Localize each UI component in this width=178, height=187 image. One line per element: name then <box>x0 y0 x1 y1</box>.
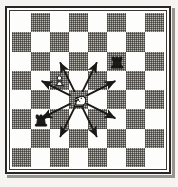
square-h6 <box>145 52 164 71</box>
square-c4 <box>50 90 69 109</box>
square-g8 <box>126 13 145 32</box>
square-a8 <box>12 13 31 32</box>
square-d5 <box>69 71 88 90</box>
square-f1 <box>107 148 126 167</box>
square-f7 <box>107 32 126 51</box>
square-f8 <box>107 13 126 32</box>
square-g7 <box>126 32 145 51</box>
square-e4 <box>88 90 107 109</box>
square-c7 <box>50 32 69 51</box>
square-d3 <box>69 109 88 128</box>
square-d1 <box>69 148 88 167</box>
square-e8 <box>88 13 107 32</box>
square-d4 <box>69 90 88 109</box>
square-e3 <box>88 109 107 128</box>
square-h5 <box>145 71 164 90</box>
square-c2 <box>50 129 69 148</box>
square-g2 <box>126 129 145 148</box>
square-a5 <box>12 71 31 90</box>
square-d8 <box>69 13 88 32</box>
square-d6 <box>69 52 88 71</box>
square-a7 <box>12 32 31 51</box>
square-c6 <box>50 52 69 71</box>
square-a1 <box>12 148 31 167</box>
square-c3 <box>50 109 69 128</box>
square-g4 <box>126 90 145 109</box>
square-h4 <box>145 90 164 109</box>
square-a2 <box>12 129 31 148</box>
square-a3 <box>12 109 31 128</box>
square-d2 <box>69 129 88 148</box>
square-c5 <box>50 71 69 90</box>
square-g5 <box>126 71 145 90</box>
square-e5 <box>88 71 107 90</box>
square-d7 <box>69 32 88 51</box>
square-b3 <box>31 109 50 128</box>
square-f3 <box>107 109 126 128</box>
square-e7 <box>88 32 107 51</box>
square-h2 <box>145 129 164 148</box>
square-b7 <box>31 32 50 51</box>
chess-diagram-figure: Chess diagram: a white knight on d4 with… <box>0 0 178 187</box>
square-b1 <box>31 148 50 167</box>
square-g3 <box>126 109 145 128</box>
square-h7 <box>145 32 164 51</box>
square-b4 <box>31 90 50 109</box>
square-h1 <box>145 148 164 167</box>
square-e2 <box>88 129 107 148</box>
square-b2 <box>31 129 50 148</box>
square-g6 <box>126 52 145 71</box>
square-c1 <box>50 148 69 167</box>
square-b5 <box>31 71 50 90</box>
square-c8 <box>50 13 69 32</box>
chessboard <box>12 13 164 167</box>
square-a4 <box>12 90 31 109</box>
square-e6 <box>88 52 107 71</box>
square-f4 <box>107 90 126 109</box>
square-f6 <box>107 52 126 71</box>
square-g1 <box>126 148 145 167</box>
square-f2 <box>107 129 126 148</box>
square-e1 <box>88 148 107 167</box>
square-a6 <box>12 52 31 71</box>
square-f5 <box>107 71 126 90</box>
square-h8 <box>145 13 164 32</box>
square-h3 <box>145 109 164 128</box>
square-b6 <box>31 52 50 71</box>
square-b8 <box>31 13 50 32</box>
